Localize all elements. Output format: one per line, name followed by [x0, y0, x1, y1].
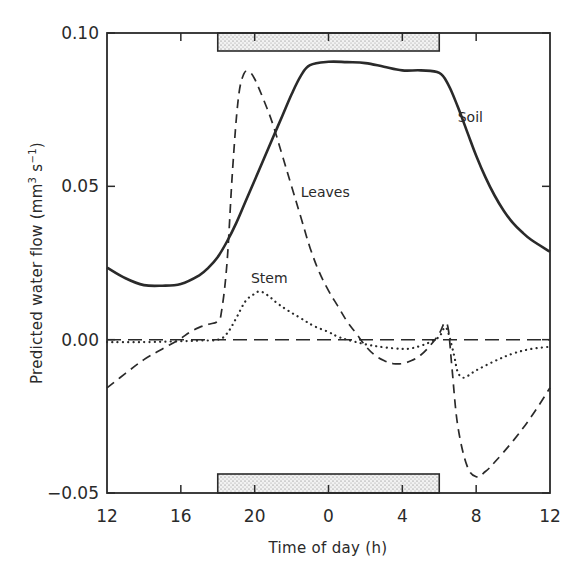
y-axis-title-main: Predicted water flow (mm: [28, 183, 46, 384]
y-axis-title-mid: s: [28, 164, 46, 177]
y-axis-ticks: 0.100.050.00−0.05: [47, 23, 550, 503]
y-axis-title-sup2: −1: [27, 148, 38, 163]
y-tick-label: 0.05: [61, 176, 99, 196]
y-axis-title: Predicted water flow (mm3 s−1): [27, 142, 46, 384]
y-tick-label: 0.00: [61, 330, 99, 350]
series-group: [107, 62, 550, 477]
x-axis-title: Time of day (h): [268, 539, 388, 557]
x-tick-label: 0: [323, 506, 334, 526]
y-tick-label: −0.05: [47, 483, 99, 503]
x-axis-ticks: 12162004812: [96, 33, 561, 526]
y-tick-label: 0.10: [61, 23, 99, 43]
x-tick-label: 8: [471, 506, 482, 526]
x-tick-label: 20: [244, 506, 266, 526]
plot-frame: [107, 33, 550, 493]
series-line-leaves: [107, 71, 550, 477]
x-tick-label: 12: [539, 506, 561, 526]
dark-period-bars: [218, 33, 440, 493]
series-label-stem: Stem: [251, 270, 288, 286]
y-axis-title-end: ): [28, 142, 46, 148]
series-label-soil: Soil: [458, 109, 483, 125]
series-label-leaves: Leaves: [301, 184, 350, 200]
axes-frame: [107, 33, 550, 493]
chart: 12162004812 0.100.050.00−0.05 SoilLeaves…: [0, 0, 586, 574]
y-axis-title-sup1: 3: [27, 177, 38, 184]
x-tick-label: 16: [170, 506, 192, 526]
x-tick-label: 12: [96, 506, 118, 526]
x-tick-label: 4: [397, 506, 408, 526]
series-line-stem: [107, 291, 550, 377]
series-labels: SoilLeavesStem: [251, 109, 483, 286]
series-line-soil: [107, 62, 550, 286]
